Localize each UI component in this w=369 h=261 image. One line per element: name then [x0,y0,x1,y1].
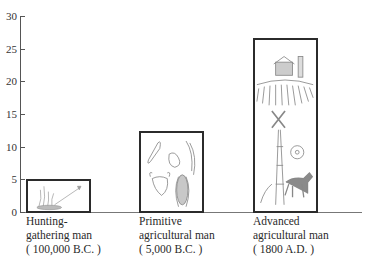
y-tick-0 [20,212,25,213]
label-line: Primitive [139,214,215,228]
y-tick-30 [20,16,25,17]
label-line: ( 5,000 B.C. ) [139,242,215,256]
label-line: agricultural man [253,228,329,242]
y-tick-label: 0 [0,207,17,218]
y-tick-10 [20,147,25,148]
farm-windmill-horse-illustration [255,40,316,211]
label-line: Advanced [253,214,329,228]
bar-advanced-agricultural [253,38,318,213]
bar-primitive-agricultural [139,131,204,213]
y-tick-label: 20 [0,76,17,87]
category-label-primitive-agricultural: Primitive agricultural man ( 5,000 B.C. … [139,214,215,256]
y-tick-20 [20,81,25,82]
label-line: ( 100,000 B.C. ) [26,242,101,256]
label-line: agricultural man [139,228,215,242]
category-label-advanced-agricultural: Advanced agricultural man ( 1800 A.D. ) [253,214,329,256]
ox-corn-illustration [141,133,202,211]
y-tick-label: 25 [0,44,17,55]
category-label-hunting-gathering: Hunting- gathering man ( 100,000 B.C. ) [26,214,101,256]
y-tick-label: 10 [0,142,17,153]
bar-hunting-gathering [26,179,91,213]
label-line: ( 1800 A.D. ) [253,242,329,256]
campfire-spear-illustration [28,181,89,211]
label-line: gathering man [26,228,101,242]
y-tick-label: 15 [0,109,17,120]
y-tick-5 [20,179,25,180]
y-tick-label: 5 [0,174,17,185]
y-tick-15 [20,114,25,115]
label-line: Hunting- [26,214,101,228]
y-tick-label: 30 [0,11,17,22]
y-tick-25 [20,49,25,50]
